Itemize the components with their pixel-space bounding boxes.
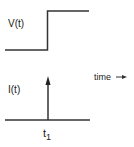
current-impulse-waveform [5,76,90,120]
time-arrow-icon [116,75,127,79]
marker-label-t1: t1 [43,127,51,142]
voltage-label: V(t) [8,18,24,29]
marker-label-subscript: 1 [46,132,51,142]
time-axis-label: time [94,72,111,82]
current-label: I(t) [8,84,20,95]
impulse-arrowhead-icon [46,76,51,85]
step-impulse-diagram: V(t) I(t) time t1 [0,0,134,147]
voltage-step-waveform [5,11,89,50]
